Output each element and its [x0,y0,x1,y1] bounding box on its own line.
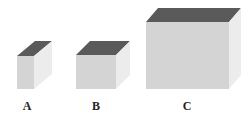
cube-c [146,8,241,89]
cube-c-side-face [229,8,241,89]
cube-b [76,41,130,89]
cube-c-label: C [183,99,192,114]
cubes-drawing [0,0,252,118]
cube-b-front-face [76,55,116,89]
cube-b-label: B [92,99,100,114]
cube-c-top-face [146,8,241,22]
cube-a-label: A [23,99,32,114]
cube-comparison-figure: A B C [0,0,252,118]
cube-a [17,41,52,89]
cube-a-front-face [17,56,34,89]
cube-c-front-face [146,22,229,89]
